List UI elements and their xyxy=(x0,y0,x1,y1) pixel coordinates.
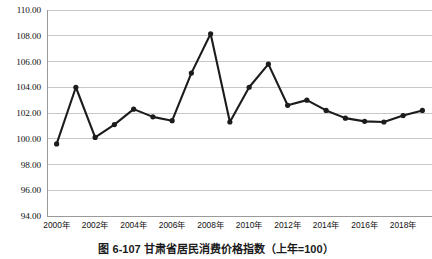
series-line-cpi xyxy=(57,34,423,144)
gridlines-group xyxy=(47,10,432,216)
y-tick-label: 94.00 xyxy=(21,211,42,221)
figure-caption: 图 6-107 甘肃省居民消费价格指数（上年=100） xyxy=(0,240,432,256)
data-point xyxy=(362,119,367,124)
data-point xyxy=(150,114,155,119)
y-tick-label: 108.00 xyxy=(16,31,41,41)
chart-plot-area: 110.00108.00106.00104.00102.00100.0098.0… xyxy=(0,0,432,232)
data-point xyxy=(285,103,290,108)
y-tick-label: 106.00 xyxy=(16,57,41,67)
data-point xyxy=(381,119,386,124)
data-point xyxy=(73,85,78,90)
data-point xyxy=(93,135,98,140)
x-tick-label: 2010年 xyxy=(236,220,263,230)
data-point xyxy=(343,116,348,121)
y-tick-label: 104.00 xyxy=(16,82,41,92)
y-tick-label: 100.00 xyxy=(16,134,41,144)
data-point xyxy=(131,107,136,112)
data-point xyxy=(54,141,59,146)
x-tick-label: 2016年 xyxy=(351,220,378,230)
data-point xyxy=(401,113,406,118)
data-point xyxy=(420,108,425,113)
y-tick-label: 110.00 xyxy=(17,5,42,15)
data-point xyxy=(189,70,194,75)
x-tick-label: 2006年 xyxy=(159,220,186,230)
x-tick-label: 2000年 xyxy=(43,220,70,230)
data-point xyxy=(208,31,213,36)
x-tick-label: 2014年 xyxy=(313,220,340,230)
x-tick-label: 2018年 xyxy=(390,220,417,230)
y-tick-label: 96.00 xyxy=(21,185,42,195)
series-markers-cpi xyxy=(54,31,425,146)
x-tick-label: 2008年 xyxy=(197,220,224,230)
data-point xyxy=(112,122,117,127)
y-tick-label: 102.00 xyxy=(16,108,41,118)
line-chart: 110.00108.00106.00104.00102.00100.0098.0… xyxy=(0,0,432,232)
data-point xyxy=(227,119,232,124)
data-point xyxy=(266,61,271,66)
x-tick-label: 2002年 xyxy=(82,220,109,230)
y-tick-label: 98.00 xyxy=(21,160,42,170)
y-axis-tick-labels: 110.00108.00106.00104.00102.00100.0098.0… xyxy=(16,5,41,221)
x-axis-tick-labels: 2000年2002年2004年2006年2008年2010年2012年2014年… xyxy=(43,220,416,230)
figure-container: 110.00108.00106.00104.00102.00100.0098.0… xyxy=(0,0,432,259)
data-point xyxy=(324,108,329,113)
x-tick-label: 2004年 xyxy=(120,220,147,230)
x-tick-label: 2012年 xyxy=(274,220,301,230)
data-point xyxy=(304,98,309,103)
data-point xyxy=(170,118,175,123)
data-point xyxy=(247,85,252,90)
